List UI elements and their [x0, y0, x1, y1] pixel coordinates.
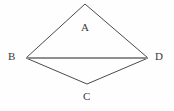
- vertex-label-a: A: [81, 22, 89, 33]
- vertex-label-b: B: [8, 51, 15, 62]
- vertex-label-c: C: [83, 91, 90, 102]
- vertex-label-d: D: [155, 51, 163, 62]
- geometry-figure: A B C D: [0, 0, 174, 111]
- rhombus-outline: [26, 4, 148, 84]
